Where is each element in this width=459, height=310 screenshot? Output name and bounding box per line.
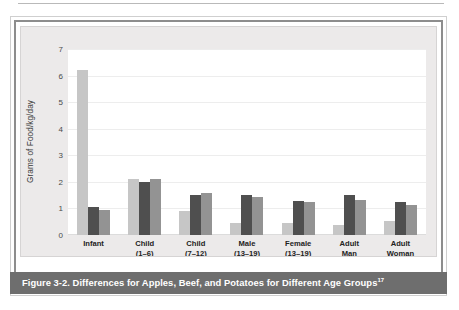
x-axis-label-line1: Female <box>285 239 311 248</box>
x-axis-label: Infant <box>68 239 119 249</box>
bar-group <box>170 49 221 235</box>
chart-panel: Grams of Food/kg/day ApplesBeefPotatoes … <box>20 26 437 257</box>
bar-potatoes <box>406 205 417 235</box>
bar-potatoes <box>304 202 315 235</box>
figure-container: Grams of Food/kg/day ApplesBeefPotatoes … <box>10 16 447 296</box>
page-top-rule <box>18 3 444 4</box>
y-axis-tick-label: 0 <box>59 231 63 240</box>
x-axis-label-line2: Man <box>324 249 375 257</box>
bar-apples <box>333 225 344 235</box>
figure-caption-bar: Figure 3-2. Differences for Apples, Beef… <box>10 272 447 294</box>
y-axis-tick-label: 5 <box>59 98 63 107</box>
figure-caption-footnote-marker: 17 <box>377 277 384 283</box>
bar-beef <box>344 195 355 235</box>
y-axis-tick-label: 6 <box>59 71 63 80</box>
bar-potatoes <box>99 210 110 235</box>
plot-area: 01234567 <box>68 49 426 235</box>
x-axis-label-line1: Male <box>239 239 256 248</box>
x-axis-label-line1: Adult <box>340 239 359 248</box>
y-axis-tick-label: 1 <box>59 204 63 213</box>
bar-beef <box>190 195 201 235</box>
x-axis-label: Child(1–6) <box>119 239 170 257</box>
bar-apples <box>282 223 293 235</box>
x-axis-label-line1: Child <box>135 239 154 248</box>
bar-group <box>375 49 426 235</box>
figure-inner-frame: Grams of Food/kg/day ApplesBeefPotatoes … <box>14 20 443 292</box>
figure-caption: Figure 3-2. Differences for Apples, Beef… <box>10 277 384 288</box>
x-axis-label: Male(13–19) <box>221 239 272 257</box>
bar-apples <box>384 221 395 235</box>
bar-beef <box>241 195 252 235</box>
x-axis-label-line1: Infant <box>83 239 104 248</box>
x-axis-label: AdultMan <box>324 239 375 257</box>
bar-group <box>324 49 375 235</box>
x-axis-label-line1: Child <box>186 239 205 248</box>
y-axis-tick-label: 7 <box>59 45 63 54</box>
y-axis-title-text: Grams of Food/kg/day <box>26 100 35 183</box>
x-axis-label: Female(13–19) <box>273 239 324 257</box>
bar-potatoes <box>150 179 161 235</box>
x-axis-label-line2: (13–19) <box>273 249 324 257</box>
bar-group <box>119 49 170 235</box>
y-axis-tick-label: 2 <box>59 177 63 186</box>
bar-group <box>221 49 272 235</box>
bar-beef <box>88 207 99 235</box>
x-axis-label-line2: (7–12) <box>170 249 221 257</box>
bar-apples <box>128 179 139 235</box>
bar-group <box>68 49 119 235</box>
x-axis-label: AdultWoman <box>375 239 426 257</box>
bar-apples <box>230 223 241 235</box>
y-axis-title: Grams of Food/kg/day <box>23 27 37 256</box>
y-axis-tick-label: 4 <box>59 124 63 133</box>
bar-apples <box>179 211 190 235</box>
bar-apples <box>77 70 88 235</box>
x-axis-label-line2: (13–19) <box>221 249 272 257</box>
figure-caption-main: Figure 3-2. Differences for Apples, Beef… <box>22 278 377 289</box>
bar-potatoes <box>252 197 263 235</box>
x-axis-labels: InfantChild(1–6)Child(7–12)Male(13–19)Fe… <box>68 239 426 257</box>
bar-beef <box>395 202 406 235</box>
y-axis-tick-label: 3 <box>59 151 63 160</box>
bar-potatoes <box>201 193 212 236</box>
bar-group <box>273 49 324 235</box>
x-axis-label-line1: Adult <box>391 239 410 248</box>
bar-beef <box>293 201 304 235</box>
x-axis-label-line2: (1–6) <box>119 249 170 257</box>
x-axis-label-line2: Woman <box>375 249 426 257</box>
x-axis-label: Child(7–12) <box>170 239 221 257</box>
bar-groups <box>68 49 426 235</box>
bar-potatoes <box>355 200 366 235</box>
bar-beef <box>139 182 150 235</box>
